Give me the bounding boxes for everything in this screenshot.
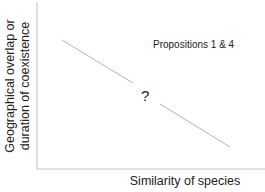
trend-line-upper-segment	[62, 40, 133, 83]
diagram: Geographical overlap or duration of coex…	[0, 0, 265, 192]
y-axis-label-line-1: Geographical overlap or	[3, 1, 18, 171]
propositions-annotation: Propositions 1 & 4	[153, 39, 234, 50]
y-axis-label: Geographical overlap or duration of coex…	[3, 1, 33, 171]
question-mark-icon: ?	[141, 87, 149, 104]
x-axis-label: Similarity of species	[110, 174, 260, 188]
plot-area	[0, 0, 265, 192]
y-axis-label-line-2: duration of coexistence	[18, 1, 33, 171]
trend-line-lower-segment	[160, 104, 230, 147]
